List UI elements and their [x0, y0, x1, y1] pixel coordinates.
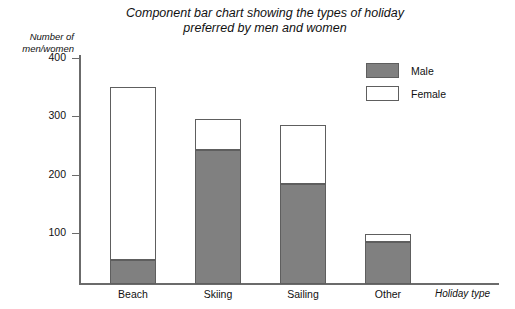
x-tick-label-sailing: Sailing [258, 288, 348, 300]
chart-title: Component bar chart showing the types of… [95, 6, 435, 36]
y-tick-400 [72, 58, 80, 59]
bar-segment-sailing-male [280, 184, 326, 284]
bar-chart: Component bar chart showing the types of… [0, 0, 515, 309]
legend: Male Female [366, 60, 446, 106]
bar-segment-other-male [365, 242, 411, 284]
y-tick-label-100: 100 [26, 226, 66, 238]
bar-segment-skiing-female [195, 119, 241, 150]
y-tick-label-400: 400 [26, 51, 66, 63]
x-tick-label-skiing: Skiing [173, 288, 263, 300]
legend-swatch-female-icon [366, 86, 399, 101]
legend-label-male: Male [411, 65, 434, 77]
bar-segment-sailing-female [280, 125, 326, 184]
y-axis-line [79, 55, 81, 284]
y-tick-100 [72, 233, 80, 234]
x-tick-label-other: Other [343, 288, 433, 300]
y-tick-label-300: 300 [26, 109, 66, 121]
legend-label-female: Female [411, 88, 446, 100]
legend-item-female: Female [366, 83, 446, 104]
x-axis-title: Holiday type [435, 288, 490, 299]
bar-segment-beach-female [110, 87, 156, 260]
chart-title-line-2: preferred by men and women [183, 21, 346, 35]
x-tick-label-beach: Beach [88, 288, 178, 300]
bar-segment-beach-male [110, 260, 156, 284]
y-tick-300 [72, 116, 80, 117]
bar-segment-skiing-male [195, 150, 241, 284]
y-axis-title-line-1: Number of [30, 31, 74, 42]
legend-item-male: Male [366, 60, 446, 81]
bar-segment-other-female [365, 234, 411, 242]
y-tick-200 [72, 175, 80, 176]
chart-title-line-1: Component bar chart showing the types of… [126, 6, 404, 20]
legend-swatch-male-icon [366, 63, 399, 78]
y-tick-label-200: 200 [26, 168, 66, 180]
